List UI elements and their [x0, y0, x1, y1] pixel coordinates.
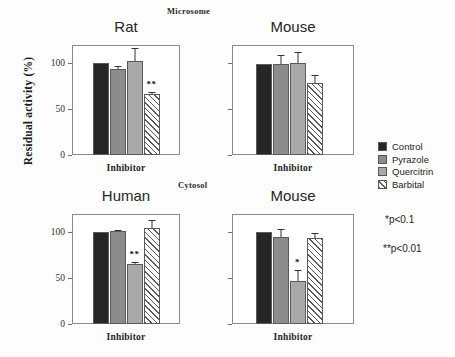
plot-area-mouse-microsome: [232, 45, 354, 155]
bar-mouse-cytosol-quercitrin: [290, 281, 306, 324]
bar-human-cytosol-quercitrin: [127, 264, 143, 324]
y-tick-mouse-microsome-50: [228, 109, 232, 110]
legend-label-pyrazole: Pyrazole: [392, 154, 429, 165]
bar-mouse-cytosol-control: [256, 232, 272, 324]
legend-label-control: Control: [392, 141, 423, 152]
bar-rat-microsome-barbital: [144, 94, 160, 155]
bar-mouse-microsome-barbital: [307, 83, 323, 155]
section-caption-microsome: Microsome: [167, 6, 210, 16]
bar-group-rat-microsome: **: [72, 45, 180, 155]
bar-group-mouse-cytosol: *: [232, 214, 354, 324]
error-bar-human-cytosol-quercitrin: [127, 262, 143, 265]
legend-item-quercitrin: Quercitrin: [378, 166, 433, 177]
y-tick-label-rat-microsome-100: 100: [40, 58, 65, 68]
bar-group-human-cytosol: **: [72, 214, 180, 324]
error-bar-rat-microsome-pyrazole: [110, 66, 126, 69]
bar-rat-microsome-control: [93, 63, 109, 155]
bar-mouse-microsome-quercitrin: [290, 63, 306, 155]
legend-swatch-barbital-icon: [378, 180, 387, 189]
error-bar-mouse-microsome-pyrazole: [273, 55, 289, 64]
legend-swatch-pyrazole-icon: [378, 155, 387, 164]
bar-group-mouse-microsome: [232, 45, 354, 155]
error-bar-mouse-microsome-quercitrin: [290, 52, 306, 63]
y-tick-mouse-microsome-0: [228, 155, 232, 156]
y-tick-mouse-microsome-100: [228, 63, 232, 64]
y-tick-label-human-cytosol-0: 0: [40, 319, 65, 329]
plot-area-rat-microsome: [72, 45, 180, 155]
error-bar-rat-microsome-barbital: [144, 92, 160, 94]
legend-swatch-quercitrin-icon: [378, 167, 387, 176]
panel-title-mouse-microsome: Mouse: [232, 18, 354, 35]
panel-title-mouse-cytosol: Mouse: [232, 187, 354, 204]
y-tick-rat-microsome-0: [68, 155, 72, 156]
bar-mouse-cytosol-barbital: [307, 238, 323, 324]
significance-note-one-star: *p<0.1: [385, 214, 414, 225]
legend-swatch-control-icon: [378, 142, 387, 151]
bar-mouse-microsome-control: [256, 64, 272, 155]
y-tick-mouse-cytosol-0: [228, 324, 232, 325]
section-caption-cytosol: Cytosol: [178, 180, 208, 190]
x-axis-label-mouse-cytosol: Inhibitor: [232, 332, 354, 342]
bar-human-cytosol-barbital: [144, 228, 160, 324]
plot-area-human-cytosol: [72, 214, 180, 324]
bar-human-cytosol-pyrazole: [110, 231, 126, 324]
significance-marker-human-cytosol-quercitrin: **: [130, 249, 140, 259]
bar-rat-microsome-pyrazole: [110, 69, 126, 155]
x-axis-label-mouse-microsome: Inhibitor: [232, 163, 354, 173]
error-bar-human-cytosol-pyrazole: [110, 230, 126, 232]
error-bar-human-cytosol-barbital: [144, 220, 160, 227]
y-tick-rat-microsome-50: [68, 109, 72, 110]
y-tick-label-human-cytosol-100: 100: [40, 227, 65, 237]
significance-marker-rat-microsome-barbital: **: [147, 79, 157, 89]
y-tick-label-rat-microsome-0: 0: [40, 150, 65, 160]
bar-mouse-microsome-pyrazole: [273, 64, 289, 155]
significance-marker-mouse-cytosol-quercitrin: *: [295, 257, 300, 267]
error-bar-rat-microsome-quercitrin: [127, 48, 143, 61]
y-tick-rat-microsome-100: [68, 63, 72, 64]
bar-human-cytosol-control: [93, 232, 109, 324]
error-bar-mouse-cytosol-quercitrin: [290, 270, 306, 281]
legend-item-control: Control: [378, 141, 433, 152]
error-bar-mouse-cytosol-barbital: [307, 233, 323, 238]
bar-mouse-cytosol-pyrazole: [273, 237, 289, 324]
plot-area-mouse-cytosol: [232, 214, 354, 324]
error-bar-mouse-microsome-barbital: [307, 75, 323, 82]
legend-item-barbital: Barbital: [378, 179, 433, 190]
y-tick-human-cytosol-100: [68, 232, 72, 233]
y-tick-mouse-cytosol-100: [228, 232, 232, 233]
panel-title-rat-microsome: Rat: [72, 18, 180, 35]
legend: Control Pyrazole Quercitrin Barbital: [378, 141, 433, 191]
error-bar-mouse-cytosol-pyrazole: [273, 229, 289, 237]
y-tick-label-human-cytosol-50: 50: [40, 273, 65, 283]
legend-label-quercitrin: Quercitrin: [392, 166, 433, 177]
y-tick-label-rat-microsome-50: 50: [40, 104, 65, 114]
y-tick-human-cytosol-50: [68, 278, 72, 279]
legend-label-barbital: Barbital: [392, 179, 424, 190]
figure-canvas: Residual activity (%) Microsome Cytosol …: [0, 0, 455, 357]
panel-title-human-cytosol: Human: [72, 187, 180, 204]
y-tick-human-cytosol-0: [68, 324, 72, 325]
y-axis-label: Residual activity (%): [22, 11, 34, 211]
x-axis-label-human-cytosol: Inhibitor: [72, 332, 180, 342]
bar-rat-microsome-quercitrin: [127, 61, 143, 155]
y-tick-mouse-cytosol-50: [228, 278, 232, 279]
legend-item-pyrazole: Pyrazole: [378, 154, 433, 165]
x-axis-label-rat-microsome: Inhibitor: [72, 163, 180, 173]
significance-note-two-star: **p<0.01: [383, 243, 422, 254]
